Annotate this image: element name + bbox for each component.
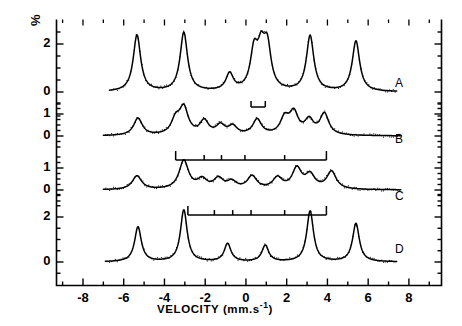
spectra-plot (0, 0, 462, 326)
y-tick-label-d-0: 0 (31, 253, 51, 268)
x-tick-label-3: -2 (192, 290, 218, 305)
spectrum-trace-b (103, 103, 400, 138)
spectrum-trace-c (103, 160, 400, 192)
top-axis-ticks (63, 20, 430, 26)
x-axis-title-exponent: -1 (260, 300, 269, 310)
spectrum-trace-a (109, 30, 396, 93)
marker-comb-a (251, 101, 265, 107)
mossbauer-figure: % VELOCITY (mm.s-1) 02010102-8-6-4-20246… (0, 0, 462, 326)
x-tick-label-1: -6 (111, 290, 137, 305)
x-axis-title-text: VELOCITY (mm.s (157, 303, 260, 315)
y-tick-label-d-1: 2 (31, 208, 51, 223)
x-tick-label-5: 2 (274, 290, 300, 305)
x-tick-label-2: -4 (151, 290, 177, 305)
x-tick-label-7: 6 (355, 290, 381, 305)
marker-comb-b (176, 151, 327, 160)
x-axis-title-close: ) (269, 303, 273, 315)
y-tick-label-a-1: 2 (31, 35, 51, 50)
fit-line-c (103, 160, 400, 190)
y-tick-label-c-0: 0 (31, 181, 51, 196)
x-tick-label-6: 4 (314, 290, 340, 305)
marker-comb-c (188, 206, 327, 215)
x-axis-ticks (63, 279, 430, 286)
plot-frame (57, 20, 442, 286)
x-tick-label-0: -8 (70, 290, 96, 305)
y-tick-label-a-0: 0 (31, 83, 51, 98)
x-tick-label-8: 8 (396, 290, 422, 305)
y-tick-label-c-1: 1 (31, 159, 51, 174)
panel-label-c: C (395, 189, 404, 203)
panel-label-b: B (395, 132, 403, 146)
y-tick-label-b-1: 1 (31, 105, 51, 120)
x-tick-label-4: 0 (233, 290, 259, 305)
fit-line-d (105, 210, 396, 262)
panel-label-d: D (395, 242, 404, 256)
spectrum-trace-d (105, 210, 396, 263)
fit-line-b (103, 104, 400, 136)
panel-label-a: A (395, 76, 403, 90)
data-points-b (105, 103, 400, 138)
y-tick-label-b-0: 0 (31, 127, 51, 142)
y-axis-label: % (28, 14, 43, 26)
fit-line-a (109, 31, 396, 91)
